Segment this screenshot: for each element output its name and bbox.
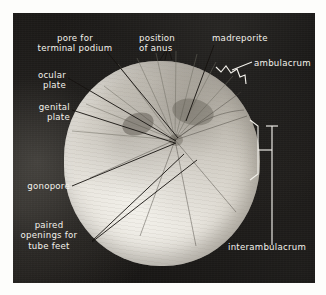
leader-ambulacrum	[232, 62, 252, 70]
label-madreporite: madreporite	[212, 33, 292, 43]
label-interambulacrum: interambulacrum	[228, 242, 318, 252]
label-gonopore: gonopore	[0, 181, 70, 191]
leader-ocular-plate	[68, 78, 176, 141]
bracket-ambulacrum	[216, 66, 246, 84]
figure-root: pore for terminal podium position of anu…	[0, 0, 326, 295]
leader-paired-openings-2	[92, 160, 197, 242]
label-pore-for-terminal-podium: pore for terminal podium	[24, 33, 126, 54]
label-position-of-anus: position of anus	[139, 33, 207, 54]
leader-paired-openings-1	[92, 154, 184, 241]
leader-madreporite	[186, 45, 214, 121]
label-paired-openings-for-tube-feet: paired openings for tube feet	[8, 220, 90, 251]
bracket-interambulacrum	[250, 120, 258, 180]
label-ocular-plate: ocular plate	[0, 70, 66, 91]
leader-gonopore	[72, 143, 176, 186]
leader-pore-terminal-podium	[103, 47, 178, 138]
label-ambulacrum: ambulacrum	[254, 58, 324, 68]
label-genital-plate: genital plate	[0, 102, 70, 123]
